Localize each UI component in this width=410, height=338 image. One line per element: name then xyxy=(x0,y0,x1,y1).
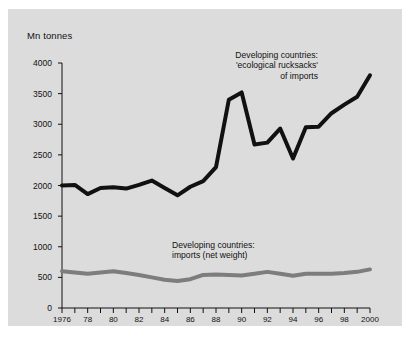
annotation-ecological-rucksacks: Developing countries: 'ecological rucksa… xyxy=(235,50,318,81)
chart-figure: Mn tonnes 050010001500200025003000350040… xyxy=(0,0,410,338)
y-axis-tick-label: 0 xyxy=(26,303,52,313)
x-axis-ticks xyxy=(62,308,370,313)
x-axis-tick-label: 92 xyxy=(263,315,272,324)
line-chart-plot xyxy=(0,0,410,338)
x-axis-tick-label: 94 xyxy=(289,315,298,324)
x-axis-tick-label: 96 xyxy=(314,315,323,324)
x-axis-tick-label: 78 xyxy=(83,315,92,324)
y-axis-unit-label: Mn tonnes xyxy=(27,30,72,41)
y-axis-tick-label: 3500 xyxy=(26,89,52,99)
x-axis-tick-label: 90 xyxy=(237,315,246,324)
y-axis-tick-label: 3000 xyxy=(26,119,52,129)
x-axis-tick-label: 98 xyxy=(340,315,349,324)
data-series-line xyxy=(62,75,370,195)
y-axis-tick-label: 1000 xyxy=(26,242,52,252)
x-axis-tick-label: 2000 xyxy=(361,315,379,324)
y-axis-tick-label: 2500 xyxy=(26,150,52,160)
y-axis-tick-label: 2000 xyxy=(26,181,52,191)
y-axis-tick-label: 1500 xyxy=(26,211,52,221)
data-series-line xyxy=(62,269,370,281)
x-axis-tick-label: 88 xyxy=(212,315,221,324)
x-axis-tick-label: 1976 xyxy=(53,315,71,324)
annotation-imports-net-weight: Developing countries: imports (net weigh… xyxy=(172,240,255,261)
x-axis-tick-label: 86 xyxy=(186,315,195,324)
x-axis-tick-label: 84 xyxy=(160,315,169,324)
x-axis-tick-label: 80 xyxy=(109,315,118,324)
y-axis-tick-label: 4000 xyxy=(26,58,52,68)
y-axis-tick-label: 500 xyxy=(26,272,52,282)
x-axis-tick-label: 82 xyxy=(135,315,144,324)
